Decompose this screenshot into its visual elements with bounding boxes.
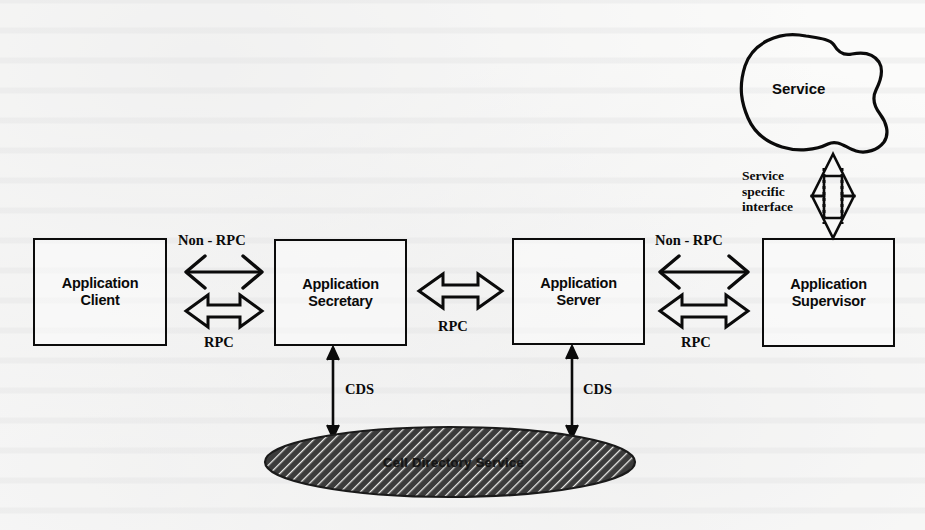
node-application-server[interactable]: Application Server bbox=[512, 238, 645, 345]
edge-label-client-secretary-rpc: RPC bbox=[204, 334, 234, 351]
node-application-supervisor[interactable]: Application Supervisor bbox=[762, 238, 895, 347]
diagram-canvas: Application Client Application Secretary… bbox=[0, 0, 925, 530]
edge-server-supervisor-nonrpc bbox=[660, 256, 748, 288]
node-application-supervisor-label: Application Supervisor bbox=[790, 276, 867, 309]
edge-label-server-supervisor-rpc: RPC bbox=[681, 334, 711, 351]
node-application-secretary[interactable]: Application Secretary bbox=[274, 239, 407, 346]
node-application-client-label: Application Client bbox=[62, 275, 139, 308]
edge-client-secretary-rpc bbox=[186, 295, 262, 327]
edge-label-server-supervisor-nonrpc: Non - RPC bbox=[655, 232, 723, 249]
cell-directory-service-label: Cell Directory Service bbox=[383, 455, 524, 470]
edge-label-client-secretary-nonrpc: Non - RPC bbox=[178, 232, 246, 249]
edge-client-secretary-nonrpc bbox=[186, 256, 262, 288]
node-application-secretary-label: Application Secretary bbox=[302, 276, 379, 309]
edge-label-server-cds: CDS bbox=[583, 381, 612, 398]
edge-secretary-cds bbox=[327, 347, 339, 438]
edge-secretary-server-rpc bbox=[419, 274, 502, 308]
edge-label-secretary-cds: CDS bbox=[345, 381, 374, 398]
edge-server-cds bbox=[566, 346, 578, 438]
node-application-server-label: Application Server bbox=[540, 275, 617, 308]
edge-server-supervisor-rpc bbox=[660, 295, 748, 327]
service-blob-label: Service bbox=[772, 80, 825, 97]
node-application-client[interactable]: Application Client bbox=[33, 238, 167, 346]
edge-label-supervisor-service-interface: Service specific interface bbox=[742, 168, 793, 215]
edge-label-secretary-server-rpc: RPC bbox=[438, 318, 468, 335]
